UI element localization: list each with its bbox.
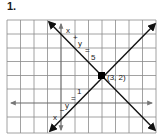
svg-text:x: x [53, 113, 57, 122]
svg-text:1: 1 [77, 87, 82, 96]
intersection-label: (3, 2) [107, 73, 126, 82]
intersection-point [98, 72, 105, 79]
svg-text:=: = [85, 46, 90, 55]
svg-text:x: x [66, 26, 70, 35]
svg-text:5: 5 [91, 53, 96, 62]
grid [7, 20, 156, 133]
coordinate-graph: x + y = 5 x − y = 1 (3, 2) [0, 0, 165, 138]
svg-text:=: = [71, 94, 76, 103]
svg-text:y: y [65, 101, 69, 110]
svg-text:y: y [78, 39, 82, 48]
